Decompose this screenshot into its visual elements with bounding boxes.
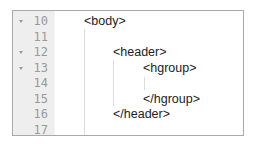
gutter-divider — [54, 11, 55, 135]
code-line[interactable]: <hgroup> — [143, 61, 197, 77]
line-number: 15 — [13, 92, 54, 108]
indent-guide — [144, 77, 145, 90]
line-number: 16 — [13, 107, 54, 123]
line-number: 10 — [13, 14, 54, 30]
fold-arrow-icon[interactable] — [19, 20, 23, 23]
line-number: 12 — [13, 45, 54, 61]
code-line[interactable]: </hgroup> — [143, 92, 200, 108]
code-line[interactable]: </header> — [113, 107, 170, 123]
line-number-gutter: 10 11 12 13 14 15 16 17 — [13, 11, 54, 135]
line-number: 17 — [13, 123, 54, 137]
indent-guide — [113, 60, 114, 106]
line-number: 14 — [13, 76, 54, 92]
line-number: 11 — [13, 30, 54, 46]
code-line[interactable]: <body> — [84, 14, 126, 30]
fold-arrow-icon[interactable] — [19, 67, 23, 70]
code-line[interactable]: <header> — [113, 45, 167, 61]
code-editor[interactable]: 10 11 12 13 14 15 16 17 <body> <header> — [12, 10, 244, 136]
fold-arrow-icon[interactable] — [19, 51, 23, 54]
line-number: 13 — [13, 61, 54, 77]
indent-guide — [84, 29, 85, 135]
